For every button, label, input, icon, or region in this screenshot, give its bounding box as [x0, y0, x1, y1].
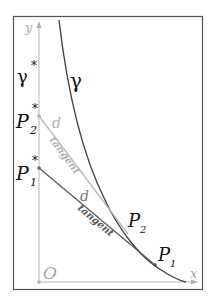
y-axis-label: y — [24, 20, 33, 35]
gamma-curve — [59, 20, 186, 282]
distance-label-upper: d — [52, 115, 61, 131]
gamma-label: γ — [70, 69, 82, 93]
p1-star-sub: 1 — [30, 176, 37, 189]
p2-sub: 2 — [139, 224, 146, 235]
y-axis-arrow-icon — [37, 21, 42, 28]
tractrix-diagram: y x O γ γ * P 2 * P 1 * P 2 P 1 d d tang… — [0, 0, 215, 302]
p1-label: P — [157, 244, 171, 265]
origin-label: O — [43, 263, 57, 283]
p1-star-label: P — [15, 162, 30, 184]
tangent-label-lower: tangent — [76, 202, 117, 239]
gamma-star-label: γ — [17, 66, 28, 87]
distance-label-lower: d — [80, 188, 89, 204]
gamma-star-sup: * — [31, 59, 37, 73]
p1-star-sup: * — [32, 154, 38, 168]
p2-label: P — [127, 210, 141, 231]
tangent-label-upper: tangent — [47, 135, 82, 177]
p2-star-sub: 2 — [29, 124, 37, 137]
p1-sub: 1 — [170, 258, 176, 269]
x-axis-label: x — [190, 266, 198, 281]
frame-border — [14, 17, 203, 290]
origin-point — [37, 280, 41, 284]
p2-star-label: P — [15, 110, 30, 132]
point-p1 — [153, 263, 157, 267]
p2-star-sup: * — [32, 102, 38, 116]
